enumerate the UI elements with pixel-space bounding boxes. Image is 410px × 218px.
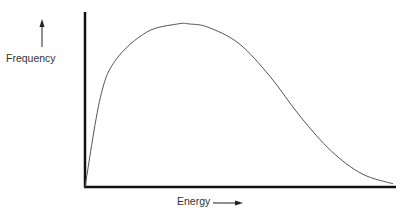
chart-plot-area xyxy=(0,0,410,218)
y-arrow-icon xyxy=(40,19,45,47)
x-axis-label: Energy xyxy=(177,195,210,207)
y-axis-label: Frequency xyxy=(6,52,56,64)
distribution-curve xyxy=(85,23,393,187)
x-arrow-icon xyxy=(213,201,243,206)
